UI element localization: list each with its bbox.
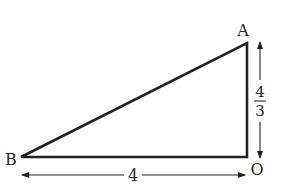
- height-fraction-numerator: 4: [255, 83, 265, 101]
- vertex-label-o: O: [250, 160, 263, 179]
- vertex-label-b: B: [5, 150, 17, 169]
- height-fraction-denominator: 3: [255, 102, 265, 120]
- vertex-label-a: A: [236, 21, 249, 40]
- triangle-diagram: A B O 4 4 3: [0, 0, 282, 195]
- base-dimension-label: 4: [128, 166, 138, 185]
- triangle-shape: [21, 43, 247, 157]
